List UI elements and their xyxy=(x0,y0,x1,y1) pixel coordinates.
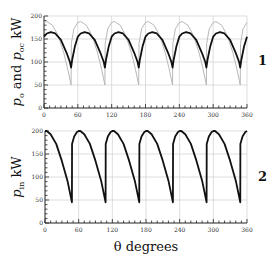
y-tick-label: 200 xyxy=(32,127,44,134)
x-tick-label: 0 xyxy=(43,226,47,233)
x-tick-label: 120 xyxy=(107,226,119,233)
x-tick-label: 180 xyxy=(140,226,152,233)
panel-1-ylabel: po and poc kW xyxy=(9,17,26,107)
y-tick-label: 50 xyxy=(34,81,42,88)
x-tick-label: 360 xyxy=(241,226,253,233)
x-tick-label: 180 xyxy=(140,111,152,118)
y-tick-label: 150 xyxy=(31,35,43,42)
x-tick-label: 240 xyxy=(174,111,186,118)
panel-2-label: 2 xyxy=(258,169,267,184)
y-tick-label: 50 xyxy=(35,196,43,203)
x-tick-label: 120 xyxy=(106,111,118,118)
x-tick-label: 60 xyxy=(75,226,83,233)
y-tick-label: 150 xyxy=(32,150,44,157)
panel-1-plot: 050100150200060120180240300360 xyxy=(31,12,253,118)
y-tick-label: 0 xyxy=(38,104,42,111)
y-tick-label: 100 xyxy=(31,58,43,65)
x-tick-label: 0 xyxy=(42,111,46,118)
x-tick-label: 360 xyxy=(241,111,253,118)
x-tick-label: 60 xyxy=(74,111,82,118)
chart-figure: 050100150200060120180240300360 050100150… xyxy=(0,0,272,263)
y-tick-label: 200 xyxy=(31,12,43,19)
panel-2-ylabel: pin kW xyxy=(9,156,26,198)
panel-1-label: 1 xyxy=(258,53,267,68)
panel-2-plot: 050100150200060120180240300360 xyxy=(32,127,253,233)
x-tick-label: 240 xyxy=(174,226,186,233)
y-tick-label: 0 xyxy=(39,219,43,226)
y-tick-label: 100 xyxy=(32,173,44,180)
x-tick-label: 300 xyxy=(207,111,219,118)
x-axis-label: θ degrees xyxy=(114,239,179,254)
x-tick-label: 300 xyxy=(208,226,220,233)
